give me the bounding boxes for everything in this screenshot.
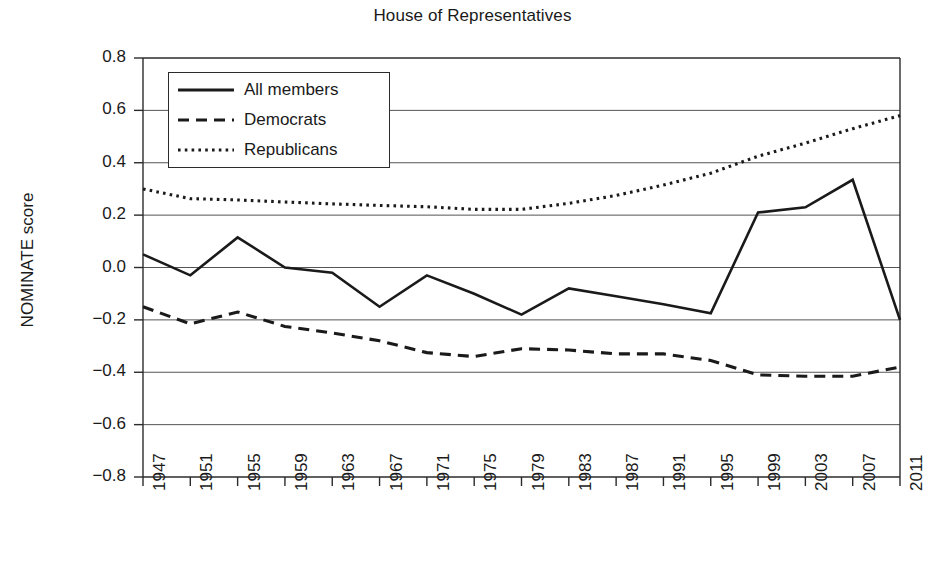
x-tick-label: 1951 — [197, 453, 217, 491]
legend-item: Democrats — [169, 105, 389, 135]
legend-label: All members — [244, 80, 338, 100]
series-line-all-members — [143, 180, 900, 320]
x-tick-label: 2003 — [812, 453, 832, 491]
legend-line-sample — [177, 83, 235, 97]
x-tick-label: 2007 — [860, 453, 880, 491]
y-tick-label: −0.6 — [66, 414, 126, 434]
legend-item: All members — [169, 75, 389, 105]
x-tick-label: 1991 — [670, 453, 690, 491]
y-tick-label: 0.4 — [66, 152, 126, 172]
y-tick-label: −0.4 — [66, 361, 126, 381]
legend-line-sample — [177, 113, 235, 127]
x-tick-label: 1955 — [245, 453, 265, 491]
x-tick-label: 1999 — [765, 453, 785, 491]
x-tick-label: 1995 — [718, 453, 738, 491]
x-tick-label: 1975 — [481, 453, 501, 491]
series-line-democrats — [143, 307, 900, 376]
y-tick-label: −0.2 — [66, 309, 126, 329]
y-tick-label: −0.8 — [66, 466, 126, 486]
y-tick-label: 0.8 — [66, 47, 126, 67]
chart-figure: House of Representatives NOMINATE score … — [0, 0, 945, 580]
y-tick-label: 0.6 — [66, 99, 126, 119]
x-tick-label: 2011 — [907, 454, 927, 491]
y-tick-label: 0.2 — [66, 204, 126, 224]
x-tick-label: 1959 — [292, 453, 312, 491]
legend-line-sample — [177, 143, 235, 157]
y-tick-label: 0.0 — [66, 257, 126, 277]
chart-legend: All membersDemocratsRepublicans — [168, 72, 390, 168]
x-tick-label: 1947 — [150, 453, 170, 491]
plot-area — [0, 0, 945, 580]
legend-item: Republicans — [169, 135, 389, 165]
legend-label: Democrats — [244, 110, 326, 130]
x-tick-label: 1983 — [576, 453, 596, 491]
x-tick-label: 1979 — [529, 453, 549, 491]
legend-label: Republicans — [244, 140, 338, 160]
x-tick-label: 1963 — [339, 453, 359, 491]
x-tick-label: 1987 — [623, 453, 643, 491]
x-tick-label: 1971 — [434, 453, 454, 491]
x-tick-label: 1967 — [387, 453, 407, 491]
